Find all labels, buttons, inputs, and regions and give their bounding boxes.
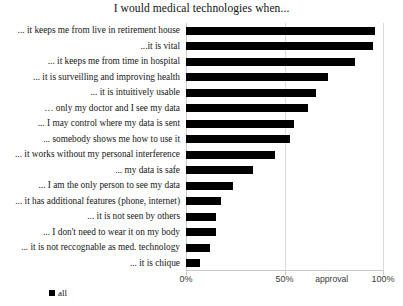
- bar-row: [186, 54, 383, 70]
- x-tick-label-50%: 50%: [275, 274, 293, 284]
- plot-area: [186, 23, 383, 271]
- gridline-100%: [383, 23, 384, 271]
- bar-row: [186, 225, 383, 241]
- category-label: ... I don't need to wear it on my body: [43, 227, 180, 237]
- legend: all: [49, 288, 67, 298]
- category-label: ... it is intuitively usable: [90, 87, 180, 97]
- x-tick-label-0%: 0%: [179, 274, 192, 284]
- bar: [186, 120, 294, 128]
- bar-row: [186, 132, 383, 148]
- bar-row: [186, 39, 383, 55]
- bar: [186, 151, 275, 159]
- category-label: ... it is surveilling and improving heal…: [33, 72, 180, 82]
- bar-row: [186, 85, 383, 101]
- bar: [186, 27, 375, 35]
- category-label: … only my doctor and I see my data: [44, 103, 180, 113]
- bar: [186, 244, 210, 252]
- category-label: ... it keeps me from time in hospital: [48, 56, 180, 66]
- legend-swatch-all: [49, 290, 55, 296]
- x-axis-title: approval: [315, 274, 348, 284]
- category-label: ... it is not reccognable as med. techno…: [21, 242, 180, 252]
- bar-row: [186, 163, 383, 179]
- bar-row: [186, 240, 383, 256]
- bar: [186, 58, 355, 66]
- category-label: ... it has additional features (phone, i…: [15, 196, 180, 206]
- bar: [186, 182, 233, 190]
- x-tick-label-100%: 100%: [371, 274, 394, 284]
- bar-row: [186, 70, 383, 86]
- bar: [186, 89, 316, 97]
- bar-row: [186, 116, 383, 132]
- bar-row: [186, 209, 383, 225]
- bar: [186, 73, 328, 81]
- bar: [186, 135, 290, 143]
- category-label: ... my data is safe: [115, 165, 180, 175]
- category-label: ...it is vital: [140, 41, 180, 51]
- bar-series-all: [186, 23, 383, 271]
- bar: [186, 259, 200, 267]
- bar: [186, 197, 221, 205]
- category-label: ... it keeps me from live in retirement …: [18, 25, 180, 35]
- category-label: ... I am the only person to see my data: [39, 180, 180, 190]
- bar: [186, 42, 373, 50]
- bar-row: [186, 178, 383, 194]
- category-label: ... it is not seen by others: [87, 211, 180, 221]
- bar-row: [186, 147, 383, 163]
- bar-row: [186, 256, 383, 272]
- chart-container: I would medical technologies when... ...…: [0, 0, 403, 306]
- bar: [186, 213, 216, 221]
- bar-row: [186, 23, 383, 39]
- chart-title: I would medical technologies when...: [0, 2, 403, 14]
- bar: [186, 104, 308, 112]
- x-axis-tick-labels: 0%50%100%approval: [0, 274, 403, 288]
- category-label: ... I may control where my data is sent: [38, 118, 180, 128]
- bar-row: [186, 101, 383, 117]
- bar-row: [186, 194, 383, 210]
- category-label: ... it is chique: [130, 258, 180, 268]
- legend-label-all: all: [58, 288, 67, 298]
- category-axis-labels: ... it keeps me from live in retirement …: [0, 23, 183, 271]
- bar: [186, 228, 216, 236]
- bar: [186, 166, 253, 174]
- category-label: ... somebody shows me how to use it: [43, 134, 180, 144]
- category-label: ... it works without my personal interfe…: [15, 149, 180, 159]
